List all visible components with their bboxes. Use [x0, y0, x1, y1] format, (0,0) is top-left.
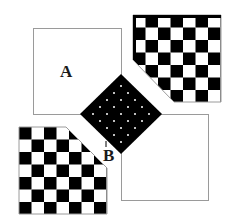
checker-bottom-left	[19, 127, 107, 214]
diagram-canvas: A B	[0, 0, 229, 222]
label-b: B	[103, 146, 114, 165]
label-a: A	[60, 62, 73, 81]
checker-top-right	[133, 15, 221, 102]
